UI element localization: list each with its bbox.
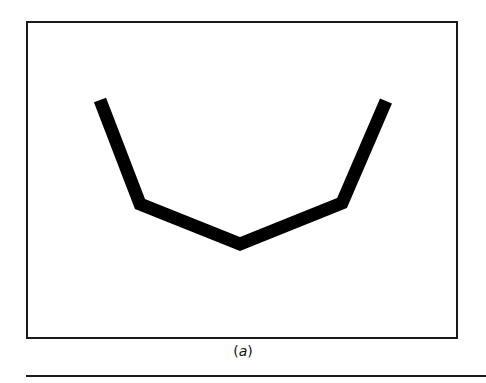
figure-canvas	[0, 0, 486, 383]
caption-label: a	[239, 343, 248, 359]
figure-caption: (a)	[0, 342, 486, 360]
caption-close-paren: )	[247, 343, 252, 359]
figure-frame	[27, 22, 457, 338]
v-shaped-polyline	[100, 100, 386, 244]
